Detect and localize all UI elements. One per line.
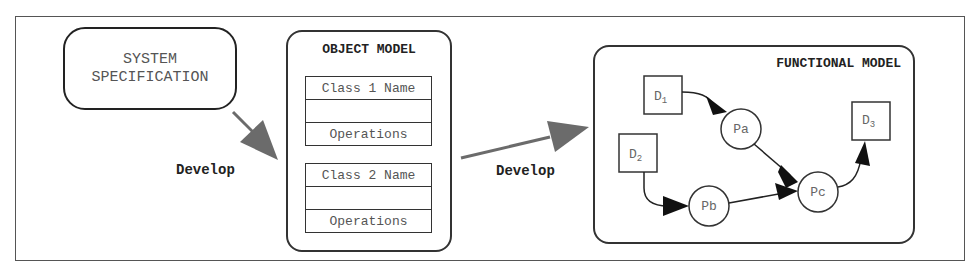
develop-arrow-2 xyxy=(461,121,589,158)
pc-label: Pc xyxy=(810,185,826,200)
diagram-graphics: D1 D2 D3 Pa Pb Pc xyxy=(0,0,980,274)
pa-label: Pa xyxy=(733,122,749,137)
data-store-d3: D3 xyxy=(852,102,890,140)
pb-label: Pb xyxy=(701,199,717,214)
data-store-d1: D1 xyxy=(644,76,682,114)
data-store-d2: D2 xyxy=(619,134,657,172)
develop-arrow-1 xyxy=(233,112,278,160)
